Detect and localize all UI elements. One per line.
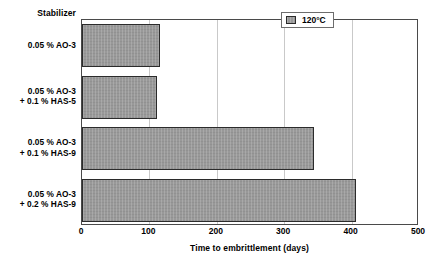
- category-label-line: 0.05 % AO-3: [0, 86, 76, 97]
- bar-chart: Stabilizer 0.05 % AO-30.05 % AO-3+ 0.1 %…: [0, 0, 447, 270]
- x-tick-label-0: 0: [61, 226, 101, 236]
- category-label-line: + 0.2 % HAS-9: [0, 199, 76, 210]
- category-label-line: 0.05 % AO-3: [0, 189, 76, 200]
- x-axis-title: Time to embrittlement (days): [81, 243, 418, 253]
- plot-area: [81, 19, 418, 225]
- x-tick-label-400: 400: [331, 226, 371, 236]
- x-tick-label-500: 500: [398, 226, 438, 236]
- x-axis-ticks: 0100200300400500: [0, 226, 447, 240]
- category-label: 0.05 % AO-3: [0, 40, 76, 51]
- category-label-line: 0.05 % AO-3: [0, 137, 76, 148]
- x-tick-label-300: 300: [263, 226, 303, 236]
- legend-label: 120°C: [302, 15, 326, 25]
- x-tick-label-100: 100: [128, 226, 168, 236]
- legend-swatch-icon: [286, 16, 296, 24]
- bar: [82, 127, 314, 170]
- bar: [82, 24, 160, 67]
- category-label-line: + 0.1 % HAS-5: [0, 96, 76, 107]
- bar: [82, 76, 157, 119]
- category-label: 0.05 % AO-3+ 0.2 % HAS-9: [0, 189, 76, 210]
- bar: [82, 179, 356, 222]
- category-labels: 0.05 % AO-30.05 % AO-3+ 0.1 % HAS-50.05 …: [0, 19, 76, 225]
- x-tick-label-200: 200: [196, 226, 236, 236]
- category-label-line: 0.05 % AO-3: [0, 40, 76, 51]
- chart-legend[interactable]: 120°C: [281, 12, 334, 28]
- category-axis-title: Stabilizer: [0, 8, 76, 18]
- category-label-line: + 0.1 % HAS-9: [0, 148, 76, 159]
- category-label: 0.05 % AO-3+ 0.1 % HAS-9: [0, 137, 76, 158]
- category-label: 0.05 % AO-3+ 0.1 % HAS-5: [0, 86, 76, 107]
